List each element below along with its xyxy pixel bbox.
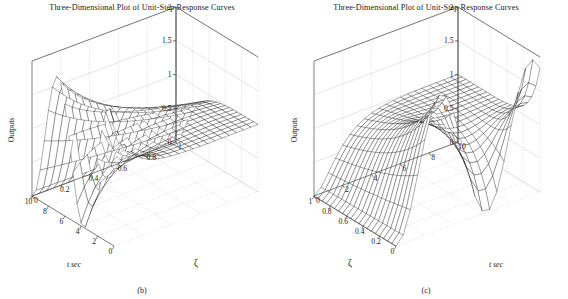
zeta-tick-label: 0.2 xyxy=(371,237,381,246)
t-tick-label: 8 xyxy=(431,153,435,162)
surface-plot-c: 00.511.52024681010.80.60.40.20Outputst s… xyxy=(284,0,568,299)
surface-plot-b: 00.511.52108642000.20.40.60.81Outputst s… xyxy=(0,0,284,299)
z-tick-label: 1.5 xyxy=(162,36,172,45)
zeta-tick-label: 1 xyxy=(178,142,182,151)
z-tick-label: 0 xyxy=(450,138,454,147)
zeta-tick-label: 0.6 xyxy=(339,217,349,226)
subcaption-b: (b) xyxy=(0,286,284,295)
subcaption-c: (c) xyxy=(284,286,568,295)
zeta-tick-label: 0.8 xyxy=(146,153,156,162)
t-tick-label: 8 xyxy=(43,207,47,216)
t-tick-label: 0 xyxy=(109,247,113,256)
t-tick-label: 0 xyxy=(316,196,320,205)
t-tick-label: 10 xyxy=(25,197,33,206)
z-axis-label: Outputs xyxy=(7,118,16,143)
plot-panel-c: Three-Dimensional Plot of Unit-Step Resp… xyxy=(284,0,568,299)
zeta-tick-label: 0.4 xyxy=(355,227,365,236)
z-tick-label: 0 xyxy=(168,138,172,147)
z-tick-label: 1.5 xyxy=(444,36,454,45)
y-axis-label: ζ xyxy=(348,258,352,269)
y-axis-label: ζ xyxy=(194,258,198,269)
z-tick-label: 0.5 xyxy=(444,104,454,113)
t-tick-label: 2 xyxy=(92,237,96,246)
z-tick-label: 2 xyxy=(168,3,172,12)
zeta-tick-label: 0.8 xyxy=(322,207,332,216)
zeta-tick-label: 0 xyxy=(34,196,38,205)
t-tick-label: 6 xyxy=(59,217,63,226)
t-tick-label: 4 xyxy=(374,174,378,183)
z-tick-label: 2 xyxy=(450,3,454,12)
t-tick-label: 2 xyxy=(345,185,349,194)
zeta-tick-label: 0.6 xyxy=(118,164,128,173)
t-tick-label: 10 xyxy=(458,142,466,151)
figure-root: Three-Dimensional Plot of Unit-Step Resp… xyxy=(0,0,568,299)
z-tick-label: 0.5 xyxy=(162,104,172,113)
zeta-tick-label: 1 xyxy=(309,197,313,206)
x-axis-label: t sec xyxy=(67,260,82,269)
z-tick-label: 1 xyxy=(450,70,454,79)
t-tick-label: 4 xyxy=(76,227,80,236)
zeta-tick-label: 0.4 xyxy=(89,174,99,183)
zeta-tick-label: 0 xyxy=(391,247,395,256)
x-axis-label: t sec xyxy=(489,260,504,269)
z-tick-label: 1 xyxy=(168,70,172,79)
z-axis-label: Outputs xyxy=(290,118,299,143)
plot-panel-b: Three-Dimensional Plot of Unit-Step Resp… xyxy=(0,0,284,299)
zeta-tick-label: 0.2 xyxy=(60,185,70,194)
t-tick-label: 6 xyxy=(403,164,407,173)
